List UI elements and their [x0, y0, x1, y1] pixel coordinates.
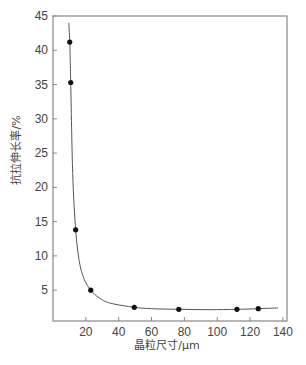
y-tick-label: 40	[35, 43, 49, 57]
x-tick-label: 140	[273, 325, 293, 339]
data-point	[68, 80, 73, 85]
data-point	[256, 306, 261, 311]
plot-frame	[53, 16, 287, 321]
y-tick-label: 5	[41, 283, 48, 297]
y-tick-label: 20	[35, 180, 49, 194]
x-axis-ticks: 20406080100120140	[79, 317, 293, 339]
data-point	[73, 227, 78, 232]
data-point	[67, 39, 72, 44]
x-tick-label: 60	[145, 325, 159, 339]
x-axis-label: 晶粒尺寸/μm	[134, 338, 199, 352]
y-tick-label: 30	[35, 112, 49, 126]
data-points	[67, 39, 261, 312]
y-tick-label: 10	[35, 249, 49, 263]
y-axis-label: 抗拉伸长率/%	[9, 115, 23, 184]
data-point	[132, 305, 137, 310]
chart: 51015202530354045 20406080100120140 晶粒尺寸…	[0, 0, 306, 365]
x-tick-label: 80	[178, 325, 192, 339]
x-tick-label: 40	[112, 325, 126, 339]
data-point	[176, 307, 181, 312]
y-tick-label: 25	[35, 146, 49, 160]
y-tick-label: 15	[35, 215, 49, 229]
x-tick-label: 100	[207, 325, 227, 339]
y-axis-ticks: 51015202530354045	[35, 9, 57, 297]
fit-curve	[69, 23, 278, 310]
y-tick-label: 35	[35, 78, 49, 92]
data-point	[234, 307, 239, 312]
y-tick-label: 45	[35, 9, 49, 23]
data-point	[88, 288, 93, 293]
x-tick-label: 120	[240, 325, 260, 339]
x-tick-label: 20	[79, 325, 93, 339]
